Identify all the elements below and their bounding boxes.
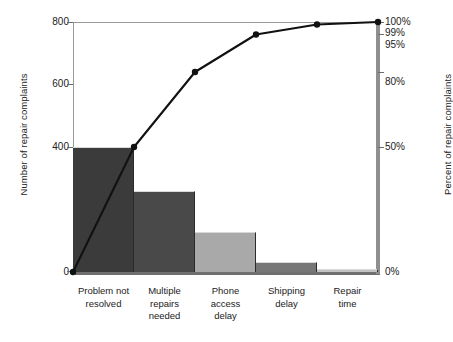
- x-axis-category-labels: Problem notresolvedMultiplerepairsneeded…: [73, 285, 378, 335]
- tick-right-80pct: [378, 72, 384, 73]
- x-category-label-1: Problem notresolved: [73, 285, 134, 335]
- category-label-line: delay: [256, 298, 317, 311]
- cumulative-point-origin: [70, 269, 76, 275]
- cumulative-point-3: [253, 31, 259, 37]
- cumulative-line-series: [73, 22, 378, 272]
- y-axis-right-title: Percent of repair complaints: [442, 40, 453, 230]
- cumulative-point-4: [314, 21, 320, 27]
- y-axis-left-title: Number of repair complaints: [18, 40, 29, 230]
- plot-area: [73, 22, 378, 272]
- tick-right-50pct: [378, 147, 384, 148]
- x-category-label-2: Multiplerepairsneeded: [134, 285, 195, 335]
- tick-right-95pct: [378, 34, 384, 35]
- cumulative-point-1: [131, 144, 137, 150]
- category-label-line: delay: [195, 310, 256, 323]
- category-label-line: Problem not: [73, 285, 134, 298]
- y-tick-label-right-0pct: 0%: [385, 267, 399, 277]
- cumulative-point-2: [192, 69, 198, 75]
- y-tick-label-right-80pct: 80%: [385, 77, 405, 87]
- category-label-line: access: [195, 298, 256, 311]
- y-tick-label-right-95pct: 95%: [385, 40, 405, 50]
- category-label-line: Multiple: [134, 285, 195, 298]
- x-category-label-5: Repairtime: [317, 285, 378, 335]
- cumulative-point-5: [375, 19, 381, 25]
- category-label-line: Phone: [195, 285, 256, 298]
- cumulative-point-markers: [70, 19, 381, 275]
- category-label-line: repairs: [134, 298, 195, 311]
- category-label-line: Repair: [317, 285, 378, 298]
- x-category-label-3: Phoneaccessdelay: [195, 285, 256, 335]
- y-tick-label-0: 0: [63, 267, 69, 277]
- y-tick-label-right-50pct: 50%: [385, 142, 405, 152]
- y-tick-label-right-100pct: 100%: [385, 17, 411, 27]
- category-label-line: time: [317, 298, 378, 311]
- category-label-line: Shipping: [256, 285, 317, 298]
- category-label-line: needed: [134, 310, 195, 323]
- y-tick-label-right-99pct: 99%: [385, 28, 405, 38]
- category-label-line: resolved: [73, 298, 134, 311]
- x-category-label-4: Shippingdelay: [256, 285, 317, 335]
- cumulative-line: [73, 22, 378, 272]
